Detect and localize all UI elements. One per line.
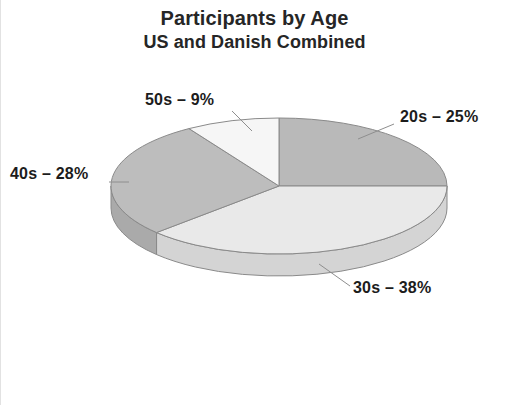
slice-label-40s: 40s – 28% xyxy=(10,165,88,183)
pie-graphic xyxy=(1,0,507,405)
pie-slice-20s xyxy=(279,118,447,186)
pie-chart-figure: Participants by Age US and Danish Combin… xyxy=(0,0,507,405)
pie-top-faces xyxy=(111,118,447,254)
slice-label-30s: 30s – 38% xyxy=(353,279,431,297)
slice-label-20s: 20s – 25% xyxy=(400,108,478,126)
slice-label-50s: 50s – 9% xyxy=(145,91,214,109)
